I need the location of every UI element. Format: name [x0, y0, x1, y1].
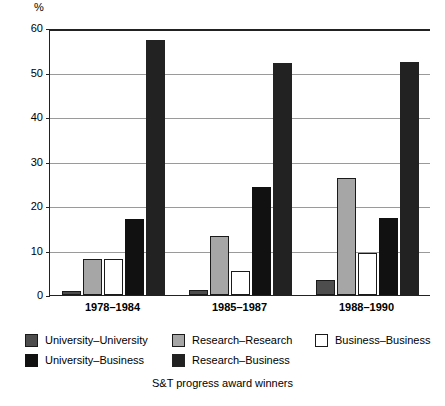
legend-item[interactable]: University–University [25, 330, 172, 350]
legend-label: Research–Business [192, 354, 290, 366]
legend-row: University–UniversityResearch–ResearchBu… [25, 330, 425, 350]
y-axis-unit-label: % [34, 2, 44, 13]
legend-swatch-icon [25, 354, 38, 367]
bar [337, 178, 356, 295]
legend-swatch-icon [172, 334, 185, 347]
legend-swatch-icon [172, 354, 185, 367]
bar-group [177, 29, 304, 295]
chart-legend: University–UniversityResearch–ResearchBu… [25, 330, 425, 370]
x-axis-tick-label: 1985–1987 [176, 301, 303, 313]
bar [189, 290, 208, 295]
legend-item[interactable]: Business–Business [315, 330, 425, 350]
legend-label: Business–Business [335, 334, 430, 346]
chart-caption: S&T progress award winners [0, 377, 445, 389]
bar [210, 236, 229, 295]
bar [125, 219, 144, 295]
legend-item[interactable]: Research–Research [172, 330, 315, 350]
bar [358, 253, 377, 295]
y-axis-tick-label: 50 [17, 68, 43, 79]
legend-label: University–Business [45, 354, 144, 366]
bar [83, 259, 102, 295]
bar [146, 40, 165, 295]
legend-label: Research–Research [192, 334, 292, 346]
x-axis-tick-label: 1978–1984 [49, 301, 176, 313]
legend-item[interactable]: Research–Business [172, 350, 315, 370]
bar-group [50, 29, 177, 295]
plot-area [49, 29, 430, 296]
legend-item[interactable]: University–Business [25, 350, 172, 370]
legend-swatch-icon [315, 334, 328, 347]
y-axis-tick-label: 60 [17, 23, 43, 34]
y-axis-tick-label: 20 [17, 201, 43, 212]
bar [273, 63, 292, 295]
y-axis-tick-label: 0 [17, 290, 43, 301]
bar-chart-figure: % 0102030405060 1978–19841985–19871988–1… [0, 0, 445, 406]
legend-swatch-icon [25, 334, 38, 347]
bar-group [304, 29, 431, 295]
legend-row: University–BusinessResearch–Business [25, 350, 425, 370]
y-axis-tick-label: 10 [17, 246, 43, 257]
x-axis-tick-label: 1988–1990 [303, 301, 430, 313]
y-axis-tick-mark [46, 296, 50, 297]
y-axis-tick-label: 40 [17, 112, 43, 123]
bar [252, 187, 271, 295]
bar [231, 271, 250, 295]
legend-label: University–University [45, 334, 148, 346]
y-axis-tick-label: 30 [17, 157, 43, 168]
bar [379, 218, 398, 295]
bar [400, 62, 419, 295]
bar [62, 291, 81, 295]
bar [104, 259, 123, 295]
bar [316, 280, 335, 295]
